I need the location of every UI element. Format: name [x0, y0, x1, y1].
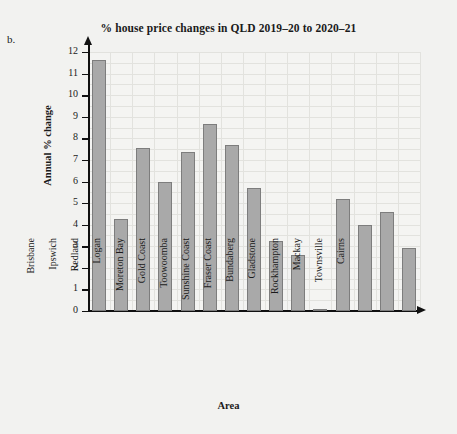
y-axis-tick: [82, 182, 88, 183]
gridline-horizontal: [88, 52, 420, 53]
y-axis-tick: [82, 289, 88, 290]
gridline-horizontal: [88, 138, 420, 139]
x-axis-tick-label: Cairns: [335, 238, 346, 316]
y-axis-tick-label: 6: [56, 176, 78, 186]
gridline-vertical: [420, 52, 421, 311]
gridline-horizontal: [88, 84, 420, 85]
x-axis-tick-label: Sunshine Coast: [180, 238, 191, 316]
y-axis-title: Annual % change: [42, 66, 53, 226]
y-axis-tick: [82, 268, 88, 269]
y-axis-tick-label: 7: [56, 154, 78, 164]
x-axis-tick-label: Fraser Coast: [202, 238, 213, 316]
bar: [380, 212, 394, 311]
x-axis-tick-label: Brisbane: [25, 238, 36, 316]
y-axis-tick: [82, 138, 88, 139]
gridline-horizontal: [88, 63, 420, 64]
y-axis-tick-label: 9: [56, 111, 78, 121]
x-axis-tick-label: Gladstone: [246, 238, 257, 316]
x-axis-arrow-icon: [417, 306, 426, 314]
y-axis-tick: [82, 95, 88, 96]
y-axis-tick-label: 12: [56, 46, 78, 56]
y-axis-tick-label: 10: [56, 89, 78, 99]
y-axis-arrow-icon: [84, 36, 92, 45]
gridline-horizontal: [88, 74, 420, 75]
gridline-horizontal: [88, 95, 420, 96]
gridline-horizontal: [88, 128, 420, 129]
x-axis-tick-label: Logan: [91, 238, 102, 316]
bar-chart-figure: b. % house price changes in QLD 2019–20 …: [0, 0, 457, 434]
bar: [402, 248, 416, 311]
x-axis-tick-label: Ipswich: [47, 238, 58, 316]
chart-title: % house price changes in QLD 2019–20 to …: [0, 22, 457, 34]
x-axis-tick-label: Moreton Bay: [114, 238, 125, 316]
figure-label: b.: [7, 33, 15, 45]
bar: [358, 225, 372, 311]
x-axis-tick-label: Townsville: [313, 238, 324, 316]
gridline-horizontal: [88, 106, 420, 107]
y-axis-tick-label: 11: [56, 68, 78, 78]
x-axis-title: Area: [0, 400, 457, 411]
y-axis-tick-label: 8: [56, 132, 78, 142]
y-axis-tick-label: 5: [56, 197, 78, 207]
x-axis-tick-label: Rockhampton: [269, 238, 280, 316]
y-axis-tick: [82, 117, 88, 118]
y-axis-tick: [82, 203, 88, 204]
y-axis-tick: [82, 160, 88, 161]
y-axis-tick: [82, 52, 88, 53]
y-axis-tick: [82, 311, 88, 312]
y-axis-tick: [82, 74, 88, 75]
x-axis-tick-label: Mackay: [291, 238, 302, 316]
x-axis-tick-label: Toowoomba: [158, 238, 169, 316]
x-axis-tick-label: Redland: [69, 238, 80, 316]
x-axis-tick-label: Gold Coast: [136, 238, 147, 316]
gridline-horizontal: [88, 117, 420, 118]
x-axis-tick-label: Bundaberg: [224, 238, 235, 316]
y-axis-line: [88, 44, 90, 312]
y-axis-tick-label: 4: [56, 219, 78, 229]
y-axis-tick: [82, 246, 88, 247]
y-axis-tick: [82, 225, 88, 226]
